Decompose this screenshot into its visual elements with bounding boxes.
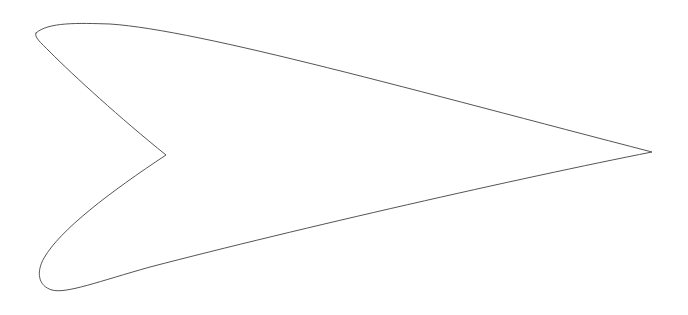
figure-canvas (0, 0, 688, 315)
canvas-background (0, 0, 688, 315)
boomerang-svg (0, 0, 688, 315)
